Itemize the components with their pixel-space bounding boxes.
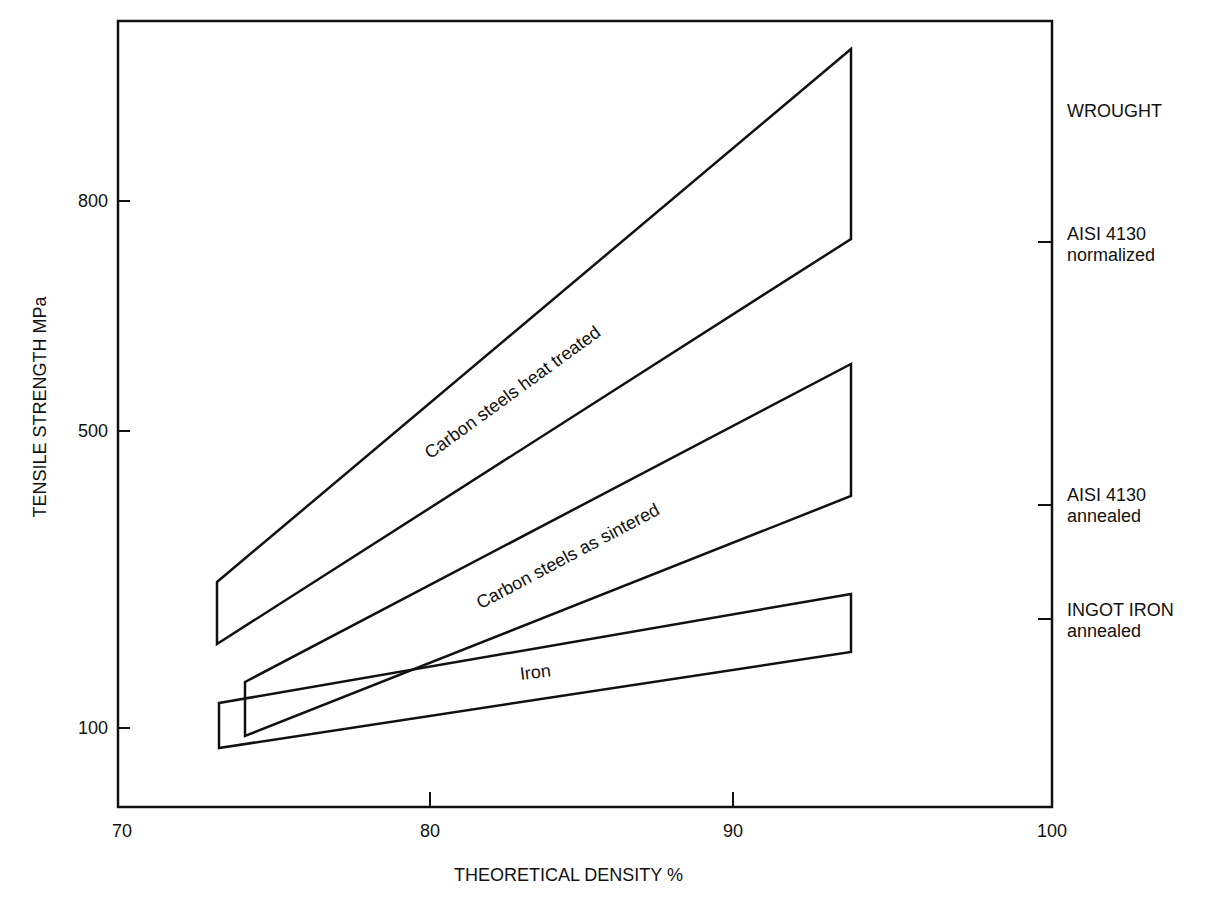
plot-frame: [118, 21, 1052, 807]
right-label-ingot-iron-line1: INGOT IRON: [1067, 600, 1174, 621]
x-tick-label-70: 70: [92, 822, 152, 840]
plot-area: [0, 0, 1212, 905]
x-tick-label-90: 90: [703, 822, 763, 840]
y-tick-label-800: 800: [48, 192, 108, 210]
y-axis-title: TENSILE STRENGTH MPa: [31, 296, 49, 517]
x-tick-label-80: 80: [400, 822, 460, 840]
x-axis-title: THEORETICAL DENSITY %: [454, 866, 683, 884]
right-label-ingot-iron-line2: annealed: [1067, 621, 1174, 642]
right-label-wrought: WROUGHT: [1067, 101, 1162, 122]
right-label-4130-normalized-line1: AISI 4130: [1067, 224, 1155, 245]
label-iron: Iron: [519, 661, 552, 683]
band-heat-treated: [217, 49, 851, 644]
right-label-4130-annealed: AISI 4130 annealed: [1067, 485, 1146, 527]
x-tick-label-100: 100: [1022, 822, 1082, 840]
right-label-4130-annealed-line2: annealed: [1067, 506, 1146, 527]
y-tick-label-100: 100: [48, 719, 108, 737]
y-tick-label-500: 500: [48, 422, 108, 440]
right-label-4130-annealed-line1: AISI 4130: [1067, 485, 1146, 506]
right-label-4130-normalized-line2: normalized: [1067, 245, 1155, 266]
right-label-4130-normalized: AISI 4130 normalized: [1067, 224, 1155, 266]
right-label-ingot-iron: INGOT IRON annealed: [1067, 600, 1174, 642]
